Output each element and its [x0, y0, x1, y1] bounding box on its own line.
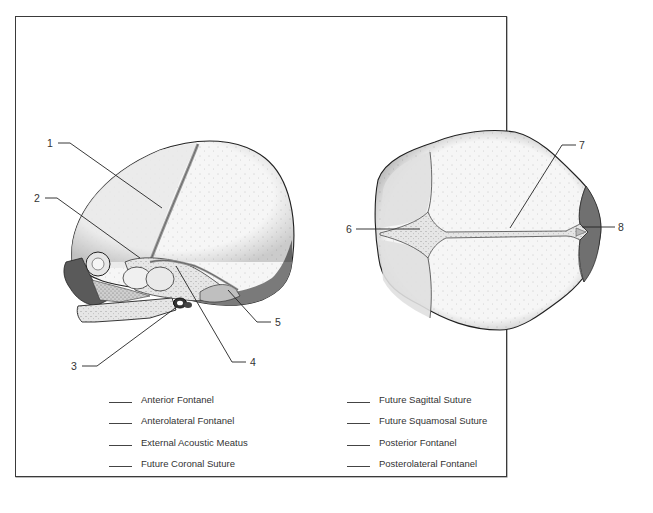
- legend-column-left: Anterior Fontanel Anterolateral Fontanel…: [109, 385, 248, 471]
- superior-skull-view: [375, 130, 601, 330]
- answer-blank[interactable]: [109, 466, 132, 467]
- callout-3: 3: [71, 360, 77, 372]
- callout-4: 4: [250, 356, 256, 368]
- legend-item-future-sagittal-suture: Future Sagittal Suture: [347, 385, 487, 407]
- legend-label: Future Squamosal Suture: [379, 415, 487, 428]
- callout-7: 7: [579, 139, 585, 151]
- answer-blank[interactable]: [347, 423, 370, 424]
- legend-label: Posterior Fontanel: [379, 437, 457, 450]
- legend-item-future-coronal-suture: Future Coronal Suture: [109, 450, 248, 472]
- callout-8: 8: [618, 221, 624, 233]
- answer-blank[interactable]: [109, 402, 132, 403]
- legend-label: Future Sagittal Suture: [379, 394, 471, 407]
- callout-5: 5: [275, 316, 281, 328]
- legend-item-external-acoustic-meatus: External Acoustic Meatus: [109, 428, 248, 450]
- callout-1: 1: [47, 137, 53, 149]
- legend-label: Future Coronal Suture: [141, 458, 235, 471]
- answer-blank[interactable]: [347, 445, 370, 446]
- legend-label: Anterior Fontanel: [141, 394, 214, 407]
- callout-2: 2: [34, 192, 40, 204]
- lateral-skull-view: [64, 141, 294, 322]
- legend-item-anterolateral-fontanel: Anterolateral Fontanel: [109, 407, 248, 429]
- legend-item-anterior-fontanel: Anterior Fontanel: [109, 385, 248, 407]
- answer-blank[interactable]: [109, 445, 132, 446]
- answer-blank[interactable]: [347, 466, 370, 467]
- legend-label: Posterolateral Fontanel: [379, 458, 477, 471]
- callout-6: 6: [346, 223, 352, 235]
- answer-blank[interactable]: [347, 402, 370, 403]
- legend-label: Anterolateral Fontanel: [141, 415, 234, 428]
- skull-diagram: 1 2 3 4 5 6 7 8: [0, 0, 653, 513]
- legend-item-future-squamosal-suture: Future Squamosal Suture: [347, 407, 487, 429]
- legend-label: External Acoustic Meatus: [141, 437, 248, 450]
- legend-column-right: Future Sagittal Suture Future Squamosal …: [347, 385, 487, 471]
- legend-item-posterior-fontanel: Posterior Fontanel: [347, 428, 487, 450]
- legend-item-posterolateral-fontanel: Posterolateral Fontanel: [347, 450, 487, 472]
- answer-blank[interactable]: [109, 423, 132, 424]
